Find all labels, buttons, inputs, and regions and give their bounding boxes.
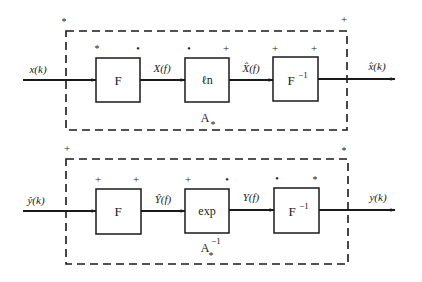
block-mark: * bbox=[95, 43, 100, 54]
block-mark: + bbox=[311, 42, 317, 54]
block-fourier-label: F bbox=[114, 204, 121, 219]
corner-mark-top-right: * bbox=[342, 145, 347, 156]
block-mark: • bbox=[225, 174, 229, 185]
system-subscript: * bbox=[209, 250, 214, 261]
output-label: x̂(k) bbox=[367, 60, 385, 73]
block-mark: + bbox=[223, 42, 229, 54]
block-logarithm-label: ℓn bbox=[201, 73, 213, 87]
system-subscript: * bbox=[211, 119, 216, 130]
block-inverse-fourier-label: F bbox=[288, 204, 295, 219]
block-inverse-fourier-superscript: −1 bbox=[298, 70, 308, 80]
block-inverse-fourier-label: F bbox=[287, 73, 294, 88]
block-inverse-fourier bbox=[273, 57, 318, 101]
block-mark: + bbox=[272, 42, 278, 54]
block-mark: * bbox=[313, 174, 318, 185]
output-label: y(k) bbox=[368, 191, 386, 204]
signal-label: Y(f) bbox=[243, 191, 260, 204]
signal-label: X̂(f) bbox=[241, 62, 259, 75]
corner-mark-top-right: + bbox=[341, 13, 347, 25]
corner-mark-top-left: * bbox=[62, 16, 67, 27]
system-superscript: −1 bbox=[211, 236, 221, 246]
block-mark: + bbox=[133, 173, 139, 185]
corner-mark-top-left: + bbox=[64, 142, 70, 154]
block-mark: • bbox=[187, 43, 191, 54]
homomorphic-system-diagram: * + x(k) F * • X(f) ℓn • + X̂(f) F −1 + … bbox=[0, 0, 422, 282]
block-mark: + bbox=[95, 173, 101, 185]
input-label: ŷ(k) bbox=[26, 194, 44, 207]
block-inverse-fourier-superscript: −1 bbox=[299, 201, 309, 211]
block-exponential-label: exp bbox=[198, 204, 215, 218]
input-label: x(k) bbox=[28, 63, 46, 76]
inverse-system: + * ŷ(k) F + + Ŷ(f) exp + • Y(f) F −1 • … bbox=[23, 142, 395, 264]
system-label: A bbox=[201, 111, 210, 125]
block-mark: + bbox=[185, 173, 191, 185]
forward-system: * + x(k) F * • X(f) ℓn • + X̂(f) F −1 + … bbox=[23, 13, 395, 130]
signal-label: Ŷ(f) bbox=[155, 193, 172, 206]
block-mark: • bbox=[275, 173, 279, 184]
block-inverse-fourier bbox=[274, 188, 319, 233]
block-fourier-label: F bbox=[114, 73, 121, 88]
signal-label: X(f) bbox=[152, 62, 170, 75]
block-mark: • bbox=[136, 43, 140, 54]
